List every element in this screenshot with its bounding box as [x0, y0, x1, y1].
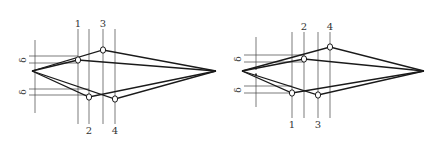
label-4: 4 — [327, 21, 333, 32]
label-2: 2 — [86, 125, 92, 136]
upper-outer-link — [32, 50, 216, 71]
delta-label-top: δ — [233, 56, 243, 61]
joint-4 — [112, 96, 117, 102]
delta-label-bottom: δ — [18, 89, 28, 94]
delta-label-top: δ — [18, 57, 28, 62]
joint-1 — [75, 57, 80, 63]
joint-2 — [301, 56, 306, 62]
label-3: 3 — [100, 18, 106, 29]
lower-inner-link — [242, 71, 424, 93]
label-1: 1 — [75, 18, 81, 29]
joint-1 — [289, 90, 294, 96]
upper-outer-link — [242, 47, 424, 71]
joint-3 — [315, 92, 320, 98]
label-4: 4 — [112, 125, 118, 136]
joint-2 — [86, 94, 91, 100]
label-2: 2 — [301, 21, 307, 32]
left-diagram: δ δ 1 3 2 4 — [18, 18, 216, 136]
upper-inner-link — [242, 59, 424, 71]
diagram-stage: δ δ 1 3 2 4 δ δ — [0, 0, 446, 143]
label-3: 3 — [315, 119, 321, 130]
delta-label-bottom: δ — [233, 87, 243, 92]
joint-4 — [327, 44, 332, 50]
joint-3 — [100, 47, 105, 53]
right-diagram: δ δ 2 4 1 3 — [233, 21, 424, 130]
label-1: 1 — [289, 119, 295, 130]
lower-inner-link — [32, 71, 216, 97]
